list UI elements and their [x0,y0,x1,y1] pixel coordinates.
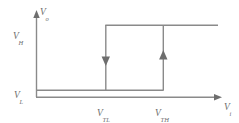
low-level-subscript: L [20,98,24,105]
low-level-tick-label: VL [14,85,24,104]
x-axis-arrowhead-icon [214,94,222,100]
upper-threshold-tick-label: VTH [155,103,169,122]
x-axis-label: Vi [224,97,232,116]
lower-threshold-tick-label: VTL [97,103,110,122]
hysteresis-diagram: Vo Vi VH VL VTL VTH [0,0,239,123]
lower-threshold-subscript: TL [103,116,110,123]
down-arrow-icon [102,57,110,67]
y-axis-label: Vo [40,2,49,21]
y-axis-arrowhead-icon [33,10,39,18]
plot-canvas [0,0,239,123]
up-arrow-icon [159,50,167,60]
high-level-subscript: H [19,39,24,46]
x-axis-label-subscript: i [230,110,232,117]
y-axis-label-subscript: o [46,15,49,22]
high-level-tick-label: VH [13,26,24,45]
upper-threshold-subscript: TH [161,116,170,123]
